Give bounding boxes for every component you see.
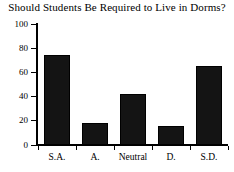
y-tick-label: 20: [0, 116, 28, 125]
bar: [120, 94, 147, 145]
y-tick-mark: [31, 48, 37, 49]
x-tick-label: A.: [76, 152, 114, 163]
y-tick-label: 100: [0, 20, 28, 29]
x-tick-label: S.D.: [190, 152, 228, 163]
x-tick-mark: [152, 146, 153, 150]
x-tick-mark: [114, 146, 115, 150]
bar-chart-figure: Should Students Be Required to Live in D…: [0, 0, 234, 172]
y-tick-mark: [31, 145, 37, 146]
y-tick-mark: [31, 120, 37, 121]
bar: [82, 123, 109, 145]
y-tick-label: 80: [0, 44, 28, 53]
x-tick-mark: [38, 146, 39, 150]
y-tick-mark: [31, 24, 37, 25]
plot-area: [38, 24, 228, 145]
x-tick-label: S.A.: [38, 152, 76, 163]
bar: [196, 66, 223, 145]
y-tick-label: 0: [0, 141, 28, 150]
y-tick-label: 40: [0, 92, 28, 101]
bar: [44, 55, 71, 145]
x-tick-mark: [190, 146, 191, 150]
x-tick-label: Neutral: [114, 152, 152, 163]
bar: [158, 126, 185, 145]
y-tick-label: 60: [0, 68, 28, 77]
y-tick-mark: [31, 72, 37, 73]
x-tick-mark: [228, 146, 229, 150]
chart-title: Should Students Be Required to Live in D…: [0, 1, 234, 14]
x-tick-label: D.: [152, 152, 190, 163]
x-tick-mark: [76, 146, 77, 150]
y-tick-mark: [31, 96, 37, 97]
